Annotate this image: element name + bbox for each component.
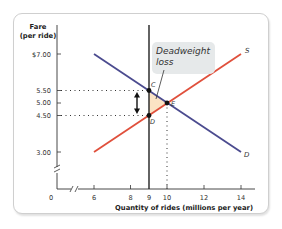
callout-line2: loss — [156, 57, 174, 67]
point-d-label: D — [150, 118, 155, 126]
x-tick-label: 6 — [92, 194, 96, 202]
y-ticks — [57, 54, 61, 152]
y-axis-title-line1: Fare — [30, 23, 47, 31]
point-e-label: E — [171, 100, 176, 108]
callout-pointer — [156, 70, 164, 99]
supply-label: S — [245, 47, 250, 55]
x-axis-title: Quantity of rides (millions per year) — [115, 204, 253, 212]
x-tick-label: 9 — [147, 194, 151, 202]
y-tick-label: 5.00 — [36, 99, 51, 107]
x-tick-label: 10 — [163, 194, 171, 202]
y-axis-title-line2: (per ride) — [20, 32, 57, 40]
point-e — [165, 101, 170, 106]
x-tick-label: 8 — [128, 194, 132, 202]
x-tick-label: 12 — [200, 194, 208, 202]
x-tick-label: 14 — [237, 194, 245, 202]
x-ticks — [94, 185, 241, 189]
callout-line1: Deadweight — [156, 46, 211, 56]
deadweight-loss-region — [149, 91, 167, 116]
double-arrow-icon — [134, 92, 140, 114]
y-tick-label: 3.00 — [36, 149, 51, 157]
demand-label: D — [244, 151, 250, 159]
y-tick-label: 4.50 — [36, 112, 51, 120]
y-tick-label: $7.00 — [32, 51, 51, 59]
y-tick-label: 5.50 — [36, 87, 51, 95]
x-tick-label: 0 — [49, 194, 53, 202]
x-axis-break-icon — [70, 186, 78, 192]
supply-demand-chart: $7.00 5.50 5.00 4.50 3.00 0 6 8 9 10 12 … — [0, 0, 282, 229]
point-c-label: C — [151, 81, 156, 89]
